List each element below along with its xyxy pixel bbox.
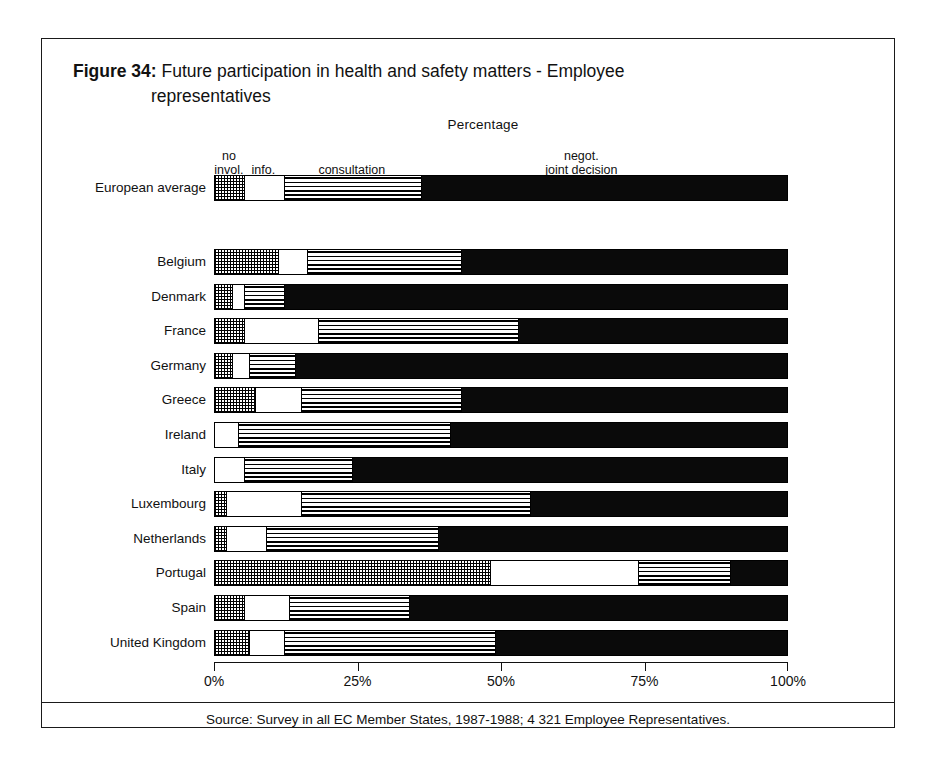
segment-info xyxy=(255,388,301,412)
chart-row: Luxembourg xyxy=(42,491,788,517)
stacked-bar xyxy=(214,353,788,379)
segment-consultation xyxy=(307,250,461,274)
segment-consultation xyxy=(249,354,295,378)
row-label: Ireland xyxy=(42,422,206,448)
stacked-bar xyxy=(214,387,788,413)
segment-no-involvement xyxy=(215,319,244,343)
segment-info xyxy=(244,176,284,200)
segment-consultation xyxy=(289,596,409,620)
segment-consultation xyxy=(318,319,518,343)
segment-no-involvement xyxy=(215,527,226,551)
row-label: Spain xyxy=(42,595,206,621)
segment-consultation xyxy=(301,388,461,412)
row-label: Germany xyxy=(42,353,206,379)
stacked-bar xyxy=(214,457,788,483)
segment-no-involvement xyxy=(215,388,255,412)
row-label: United Kingdom xyxy=(42,630,206,656)
figure-number: Figure 34: xyxy=(73,61,157,81)
segment-consultation xyxy=(266,527,438,551)
row-label: Portugal xyxy=(42,560,206,586)
stacked-bar xyxy=(214,491,788,517)
segment-negotiation xyxy=(421,176,787,200)
chart-row: Denmark xyxy=(42,284,788,310)
segment-info xyxy=(249,631,283,655)
axis-tick xyxy=(501,662,502,671)
stacked-bar xyxy=(214,175,788,201)
segment-negotiation xyxy=(295,354,787,378)
segment-no-involvement xyxy=(215,285,232,309)
figure-title-line2: representatives xyxy=(151,84,271,109)
segment-negotiation xyxy=(495,631,787,655)
figure-title: Figure 34: Future participation in healt… xyxy=(73,59,863,84)
axis-tick-label: 100% xyxy=(770,673,806,689)
figure-panel: Figure 34: Future participation in healt… xyxy=(41,38,895,728)
segment-info xyxy=(232,285,243,309)
segment-no-involvement xyxy=(215,596,244,620)
legend-negotiation: negot. joint decision xyxy=(516,149,646,177)
segment-consultation xyxy=(301,492,530,516)
chart-row: Ireland xyxy=(42,422,788,448)
row-label: Luxembourg xyxy=(42,491,206,517)
chart-row: Italy xyxy=(42,457,788,483)
chart-row: Spain xyxy=(42,595,788,621)
chart-row: France xyxy=(42,318,788,344)
segment-info xyxy=(278,250,307,274)
chart-row: Portugal xyxy=(42,560,788,586)
segment-info xyxy=(244,319,318,343)
row-label: Denmark xyxy=(42,284,206,310)
chart-row: Belgium xyxy=(42,249,788,275)
segment-info xyxy=(226,527,266,551)
stacked-bar xyxy=(214,630,788,656)
segment-consultation xyxy=(284,631,496,655)
stacked-bar xyxy=(214,422,788,448)
figure-title-line1: Future participation in health and safet… xyxy=(162,61,625,81)
segment-info xyxy=(490,561,639,585)
axis-tick-label: 75% xyxy=(630,673,658,689)
chart-row: European average xyxy=(42,175,788,201)
chart-row: United Kingdom xyxy=(42,630,788,656)
segment-info xyxy=(232,354,249,378)
source-divider xyxy=(42,702,894,703)
row-label: European average xyxy=(42,175,206,201)
segment-negotiation xyxy=(409,596,787,620)
segment-negotiation xyxy=(530,492,787,516)
chart-row: Greece xyxy=(42,387,788,413)
axis-tick xyxy=(358,662,359,671)
segment-negotiation xyxy=(518,319,787,343)
source-note: Source: Survey in all EC Member States, … xyxy=(42,712,894,727)
segment-negotiation xyxy=(352,458,787,482)
stacked-bar xyxy=(214,318,788,344)
axis-tick xyxy=(645,662,646,671)
segment-no-involvement xyxy=(215,176,244,200)
axis-tick-label: 0% xyxy=(204,673,224,689)
stacked-bar xyxy=(214,249,788,275)
row-label: France xyxy=(42,318,206,344)
axis-tick-label: 25% xyxy=(343,673,371,689)
segment-negotiation xyxy=(450,423,787,447)
axis-caption: Percentage xyxy=(42,117,894,132)
segment-no-involvement xyxy=(215,354,232,378)
stacked-bar xyxy=(214,595,788,621)
segment-no-involvement xyxy=(215,631,249,655)
chart-row: Germany xyxy=(42,353,788,379)
segment-negotiation xyxy=(461,388,787,412)
segment-consultation xyxy=(238,423,450,447)
segment-info xyxy=(215,423,238,447)
segment-negotiation xyxy=(461,250,787,274)
row-label: Belgium xyxy=(42,249,206,275)
segment-info xyxy=(226,492,300,516)
row-label: Netherlands xyxy=(42,526,206,552)
segment-negotiation xyxy=(438,527,787,551)
segment-no-involvement xyxy=(215,492,226,516)
segment-info xyxy=(244,596,290,620)
stacked-bar xyxy=(214,526,788,552)
stacked-bar xyxy=(214,560,788,586)
segment-info xyxy=(215,458,244,482)
segment-no-involvement xyxy=(215,250,278,274)
segment-negotiation xyxy=(284,285,787,309)
segment-consultation xyxy=(244,458,353,482)
row-label: Greece xyxy=(42,387,206,413)
row-label: Italy xyxy=(42,457,206,483)
segment-consultation xyxy=(244,285,284,309)
segment-consultation xyxy=(284,176,421,200)
